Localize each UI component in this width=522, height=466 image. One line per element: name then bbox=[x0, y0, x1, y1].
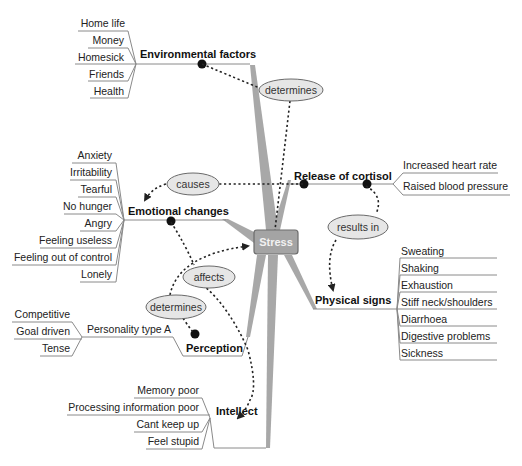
branch-label-physical: Physical signs bbox=[315, 294, 391, 306]
leaf-processing-information-poor: Processing information poor bbox=[68, 401, 199, 413]
spoke-intellect bbox=[266, 255, 278, 448]
central-node-label: Stress bbox=[259, 236, 293, 248]
leaf-memory-poor: Memory poor bbox=[137, 384, 199, 396]
central-node-stress: Stress bbox=[254, 230, 298, 254]
svg-text:determines: determines bbox=[150, 301, 202, 313]
leaf-goal-driven: Goal driven bbox=[16, 325, 70, 337]
sub-branch-personality-type-a: Personality type A bbox=[87, 323, 171, 335]
leaf-lonely: Lonely bbox=[81, 268, 113, 280]
leaf-competitive: Competitive bbox=[15, 308, 71, 320]
svg-text:affects: affects bbox=[194, 271, 225, 283]
branch-cortisol: Release of cortisol Increased heart rate… bbox=[290, 159, 510, 195]
relation-ellipse-results-in: results in bbox=[328, 215, 388, 239]
leaf-angry: Angry bbox=[85, 217, 113, 229]
leaf-shaking: Shaking bbox=[401, 262, 439, 274]
svg-text:causes: causes bbox=[176, 178, 209, 190]
svg-text:results in: results in bbox=[337, 221, 379, 233]
leaf-tense: Tense bbox=[42, 342, 70, 354]
leaf-feeling-out-of-control: Feeling out of control bbox=[14, 251, 112, 263]
leaf-raised-blood-pressure: Raised blood pressure bbox=[403, 180, 508, 192]
leaf-exhaustion: Exhaustion bbox=[401, 279, 453, 291]
relation-ellipse-causes: causes bbox=[167, 173, 219, 195]
leaf-home-life: Home life bbox=[81, 17, 126, 29]
relation-ellipse-determines-top: determines bbox=[259, 79, 323, 101]
branch-perception: Perception Personality type A Competitiv… bbox=[12, 308, 248, 356]
branch-emotional: Emotional changes Anxiety Irritability T… bbox=[12, 149, 229, 282]
spokes bbox=[222, 65, 317, 448]
branch-intellect: Intellect Memory poor Processing informa… bbox=[67, 384, 266, 449]
leaf-sickness: Sickness bbox=[401, 347, 443, 359]
branch-label-cortisol: Release of cortisol bbox=[294, 170, 392, 182]
leaf-friends: Friends bbox=[89, 68, 124, 80]
leaf-no-hunger: No hunger bbox=[63, 200, 113, 212]
branch-environmental: Environmental factors Home life Money Ho… bbox=[75, 17, 256, 98]
leaf-health: Health bbox=[94, 85, 125, 97]
connector-dot bbox=[167, 217, 176, 226]
mind-map-canvas: Environmental factors Home life Money Ho… bbox=[0, 0, 522, 466]
branch-label-intellect: Intellect bbox=[216, 405, 258, 417]
branch-label-environmental: Environmental factors bbox=[140, 48, 256, 60]
leaf-sweating: Sweating bbox=[401, 245, 444, 257]
leaf-money: Money bbox=[92, 34, 124, 46]
leaf-diarrhoea: Diarrhoea bbox=[401, 313, 447, 325]
branch-physical: Physical signs Sweating Shaking Exhausti… bbox=[313, 245, 497, 360]
leaf-anxiety: Anxiety bbox=[78, 149, 113, 161]
leaf-tearful: Tearful bbox=[80, 183, 112, 195]
branch-label-perception: Perception bbox=[186, 342, 243, 354]
svg-text:determines: determines bbox=[265, 84, 317, 96]
relation-ellipse-affects: affects bbox=[183, 266, 235, 288]
relation-ellipse-determines-bottom: determines bbox=[146, 295, 206, 319]
spoke-perception bbox=[246, 255, 266, 337]
leaf-feel-stupid: Feel stupid bbox=[148, 435, 200, 447]
spoke-emotional bbox=[222, 219, 256, 243]
leaf-homesick: Homesick bbox=[78, 51, 125, 63]
spoke-physical bbox=[284, 255, 317, 309]
leaf-feeling-useless: Feeling useless bbox=[39, 234, 112, 246]
spoke-cortisol bbox=[272, 180, 291, 230]
leaf-digestive-problems: Digestive problems bbox=[401, 330, 490, 342]
leaf-irritability: Irritability bbox=[70, 166, 113, 178]
leaf-stiff-neck-shoulders: Stiff neck/shoulders bbox=[401, 296, 492, 308]
branch-label-emotional: Emotional changes bbox=[128, 205, 229, 217]
leaf-cant-keep-up: Cant keep up bbox=[137, 418, 200, 430]
leaf-increased-heart-rate: Increased heart rate bbox=[403, 159, 497, 171]
